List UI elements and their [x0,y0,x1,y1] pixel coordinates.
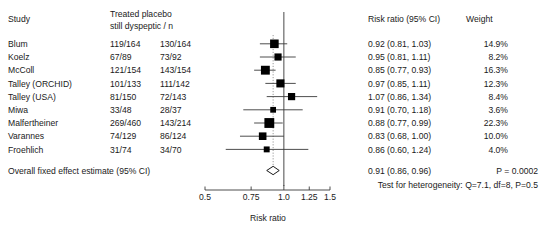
axis-tick-label: 0.75 [243,192,260,202]
study-name: Froehlich [8,145,44,155]
risk-ratio-value: 0.97 (0.85, 1.11) [368,79,431,89]
effect-marker [261,66,270,75]
risk-ratio-value: 0.85 (0.77, 0.93) [368,65,431,75]
study-name: Varannes [8,131,44,141]
treated-count: 31/74 [110,145,132,155]
treated-count: 119/164 [110,39,141,49]
treated-count: 81/150 [110,92,137,102]
weight-value: 16.3% [484,65,509,75]
placebo-count: 72/143 [160,92,187,102]
study-name: Talley (USA) [8,92,56,102]
treated-count: 269/460 [110,118,141,128]
header-study: Study [8,14,31,24]
plot-area [226,12,317,186]
header-weight: Weight [466,14,493,24]
effect-marker [264,118,274,128]
placebo-count: 86/124 [160,131,187,141]
risk-ratio-value: 0.86 (0.60, 1.24) [368,145,431,155]
overall-label: Overall fixed effect estimate (95% CI) [8,166,150,176]
placebo-count: 28/37 [160,105,182,115]
axis-tick-label: 0.5 [199,192,211,202]
risk-ratio-value: 0.88 (0.77, 0.99) [368,118,431,128]
study-name: McColl [8,65,34,75]
treated-count: 74/129 [110,131,137,141]
placebo-count: 34/70 [160,145,182,155]
header-counts-line2: still dyspeptic / n [110,21,173,31]
study-name: Miwa [8,105,28,115]
study-rows: Blum119/164130/1640.92 (0.81, 1.03)14.9%… [8,39,508,155]
overall-p-value: P = 0.0002 [496,166,538,176]
effect-marker [270,107,276,113]
weight-value: 12.3% [484,79,509,89]
x-axis: 0.50.751.01.251.5 [199,185,336,202]
treated-count: 121/154 [110,65,141,75]
treated-count: 33/48 [110,105,132,115]
effect-marker [288,93,295,100]
risk-ratio-value: 1.07 (0.86, 1.34) [368,92,431,102]
risk-ratio-value: 0.91 (0.70, 1.18) [368,105,431,115]
study-name: Malfertheiner [8,118,58,128]
study-name: Blum [8,39,28,49]
placebo-count: 130/164 [160,39,191,49]
axis-tick-label: 1.25 [301,192,318,202]
effect-marker [264,146,270,152]
weight-value: 4.0% [488,145,508,155]
weight-value: 3.6% [488,105,508,115]
header-counts-line1: Treated placebo [110,9,172,19]
weight-value: 8.4% [488,92,508,102]
placebo-count: 143/154 [160,65,191,75]
overall-risk-ratio: 0.91 (0.86, 0.96) [368,166,431,176]
overall-diamond [267,166,280,174]
risk-ratio-value: 0.83 (0.68, 1.00) [368,131,431,141]
axis-tick-label: 1.0 [278,192,290,202]
treated-count: 101/133 [110,79,141,89]
treated-count: 67/89 [110,52,132,62]
axis-tick-label: 1.5 [324,192,336,202]
weight-value: 22.3% [484,118,509,128]
axis-title: Risk ratio [250,213,286,223]
placebo-count: 73/92 [160,52,182,62]
effect-marker [259,132,267,140]
placebo-count: 111/142 [160,79,190,89]
weight-value: 14.9% [484,39,509,49]
risk-ratio-value: 0.92 (0.81, 1.03) [368,39,431,49]
study-name: Koelz [8,52,30,62]
study-name: Talley (ORCHID) [8,79,72,89]
weight-value: 8.2% [488,52,508,62]
risk-ratio-value: 0.95 (0.81, 1.11) [368,52,431,62]
heterogeneity-text: Test for heterogeneity: Q=7.1, df=8, P=0… [378,180,539,190]
effect-marker [270,40,279,49]
placebo-count: 143/214 [160,118,191,128]
header-risk-ratio: Risk ratio (95% CI) [368,14,440,24]
effect-marker [274,53,281,60]
weight-value: 10.0% [484,131,509,141]
forest-plot: Study Treated placebo still dyspeptic / … [0,0,548,233]
effect-marker [276,79,284,87]
